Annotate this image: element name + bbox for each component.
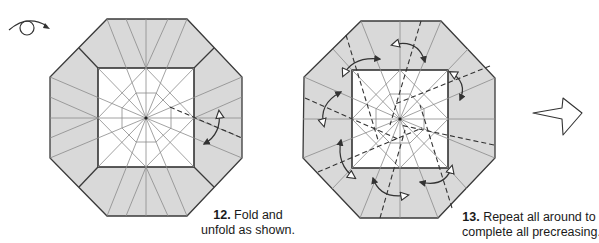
caption-line-2: complete all precreasing. <box>462 225 596 240</box>
turn-over-icon <box>9 21 50 35</box>
center-point <box>398 117 401 120</box>
caption-line-1: Repeat all around to <box>483 210 596 224</box>
step-13-caption: 13. Repeat all around to complete all pr… <box>462 210 596 240</box>
hollow-right-arrow-icon <box>533 98 582 135</box>
step-12-caption: 12. Fold and unfold as shown. <box>196 208 300 238</box>
step-number: 12. <box>213 208 230 222</box>
caption-line-2: unfold as shown. <box>196 223 300 238</box>
caption-line-1: Fold and <box>234 208 283 222</box>
step-13-diagram <box>303 21 495 218</box>
step-12-diagram <box>50 19 242 216</box>
step-number: 13. <box>462 210 479 224</box>
center-point <box>144 116 147 119</box>
diagram-canvas <box>0 0 599 243</box>
